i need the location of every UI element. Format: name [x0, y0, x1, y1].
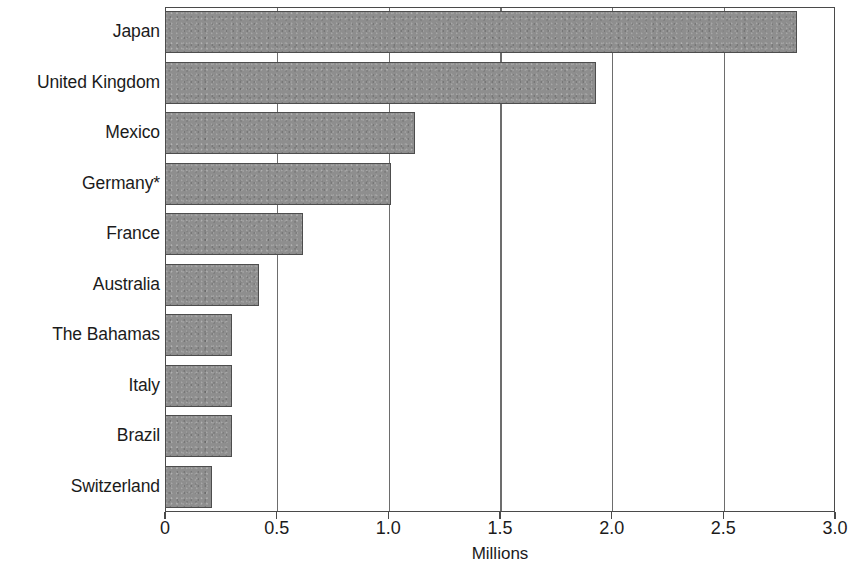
- axis-tick-label: 2.5: [711, 519, 736, 537]
- axis-tick-label: 3.0: [822, 519, 847, 537]
- category-label: Mexico: [0, 124, 160, 142]
- bar: [165, 264, 259, 306]
- bar: [165, 11, 797, 53]
- axis-tick-label: 0: [160, 519, 170, 537]
- axis-tick-label: 1.0: [376, 519, 401, 537]
- bar: [165, 466, 212, 508]
- category-label: Germany*: [0, 175, 160, 193]
- category-label: Japan: [0, 23, 160, 41]
- category-label: Australia: [0, 276, 160, 294]
- bar-chart: JapanUnited KingdomMexicoGermany*FranceA…: [0, 0, 857, 569]
- category-axis-labels: JapanUnited KingdomMexicoGermany*FranceA…: [0, 0, 160, 512]
- category-label: Italy: [0, 377, 160, 395]
- bar: [165, 112, 415, 154]
- bars-layer: [165, 7, 835, 512]
- bar: [165, 213, 303, 255]
- axis-tick-label: 1.5: [487, 519, 512, 537]
- category-label: France: [0, 225, 160, 243]
- bar: [165, 62, 596, 104]
- x-axis-title: Millions: [165, 545, 835, 562]
- category-label: Brazil: [0, 427, 160, 445]
- bar: [165, 314, 232, 356]
- bar: [165, 365, 232, 407]
- category-label: The Bahamas: [0, 326, 160, 344]
- category-label: United Kingdom: [0, 74, 160, 92]
- bar: [165, 163, 391, 205]
- category-label: Switzerland: [0, 478, 160, 496]
- bar: [165, 415, 232, 457]
- axis-tick-label: 2.0: [599, 519, 624, 537]
- axis-tick-label: 0.5: [264, 519, 289, 537]
